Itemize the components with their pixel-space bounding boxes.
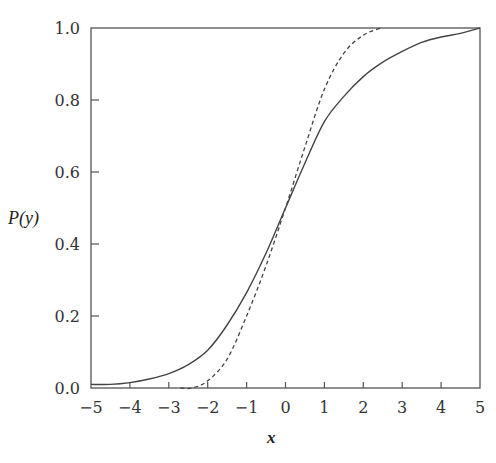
dashed-curve <box>181 28 381 389</box>
x-tick-label: −2 <box>196 398 220 417</box>
y-tick-label: 0.4 <box>55 235 80 254</box>
x-tick-label: −4 <box>118 398 142 417</box>
x-tick-label: −1 <box>235 398 259 417</box>
y-tick-label: 0.0 <box>55 379 80 398</box>
x-tick-label: 2 <box>358 398 368 417</box>
x-axis-ticks: −5−4−3−2−1012345 <box>79 382 485 417</box>
x-tick-label: 4 <box>436 398 446 417</box>
series-layer <box>91 28 480 389</box>
y-axis-ticks: 0.00.20.40.60.81.0 <box>55 19 99 398</box>
x-tick-label: 3 <box>397 398 407 417</box>
x-tick-label: −3 <box>157 398 181 417</box>
x-tick-label: −5 <box>79 398 103 417</box>
y-axis-title: P(y) <box>7 208 39 229</box>
y-tick-label: 1.0 <box>55 19 80 38</box>
y-tick-label: 0.6 <box>55 163 80 182</box>
x-axis-title: x <box>266 428 276 447</box>
solid-curve <box>91 28 480 385</box>
chart: 0.00.20.40.60.81.0 −5−4−3−2−1012345 P(y)… <box>0 0 496 463</box>
x-tick-label: 0 <box>280 398 290 417</box>
y-tick-label: 0.2 <box>55 307 80 326</box>
x-tick-label: 5 <box>475 398 485 417</box>
x-tick-label: 1 <box>319 398 329 417</box>
y-tick-label: 0.8 <box>55 91 80 110</box>
